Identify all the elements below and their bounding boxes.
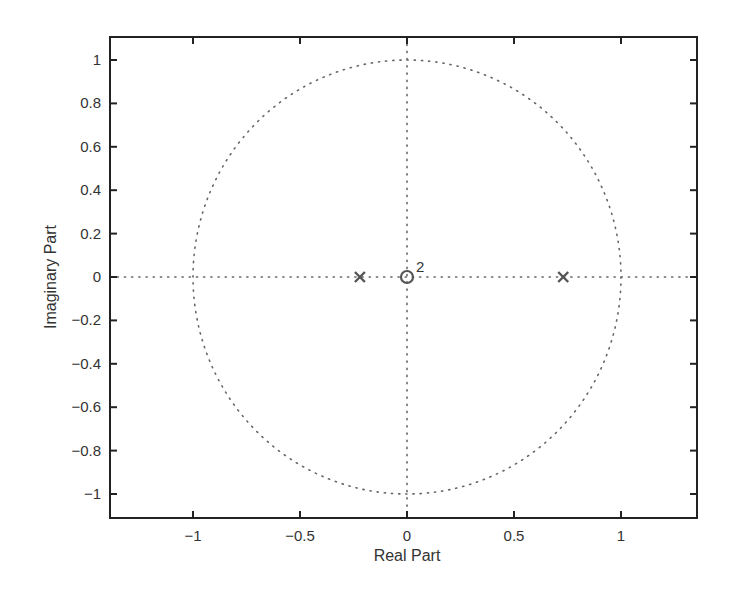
y-tick-label: 0	[93, 268, 101, 285]
x-axis-label: Real Part	[374, 547, 441, 564]
multiplicity-label: 2	[416, 258, 424, 275]
y-tick-label: −1	[84, 485, 101, 502]
y-tick-label: −0.2	[71, 311, 101, 328]
y-tick-label: 0.4	[80, 181, 101, 198]
x-tick-label: 0	[403, 527, 411, 544]
axis-ticks: −1−0.500.5110.80.60.40.20−0.2−0.4−0.6−0.…	[71, 37, 697, 544]
pole-zero-chart: −1−0.500.5110.80.60.40.20−0.2−0.4−0.6−0.…	[0, 0, 738, 595]
x-tick-label: 1	[617, 527, 625, 544]
x-tick-label: −0.5	[285, 527, 315, 544]
reference-lines	[110, 37, 697, 518]
y-tick-label: 0.8	[80, 94, 101, 111]
y-tick-label: 0.2	[80, 225, 101, 242]
y-tick-label: 0.6	[80, 138, 101, 155]
y-tick-label: −0.6	[71, 398, 101, 415]
y-tick-label: −0.4	[71, 355, 101, 372]
pole-marker	[558, 272, 568, 282]
y-tick-label: 1	[93, 51, 101, 68]
x-tick-label: 0.5	[504, 527, 525, 544]
y-axis-label: Imaginary Part	[42, 224, 59, 329]
y-tick-label: −0.8	[71, 442, 101, 459]
x-tick-label: −1	[184, 527, 201, 544]
